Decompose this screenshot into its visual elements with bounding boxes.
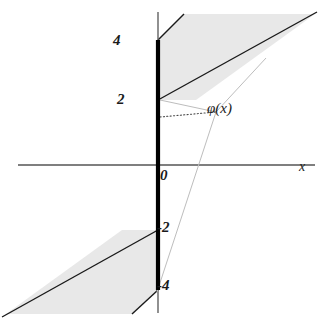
x-axis-label: x: [299, 160, 305, 174]
origin-label: 0: [160, 168, 168, 183]
y-tick-label-neg4: -4: [157, 278, 170, 293]
y-tick-label-neg2: -2: [157, 220, 170, 235]
y-tick-label-2: 2: [117, 92, 125, 107]
lower-thin-diagonal: [157, 112, 216, 292]
phi-function-label: φ(x): [207, 101, 232, 116]
y-tick-label-4: 4: [113, 33, 121, 48]
phi-multifunction-diagram: 4 2 0 -2 -4 x φ(x): [0, 0, 323, 325]
